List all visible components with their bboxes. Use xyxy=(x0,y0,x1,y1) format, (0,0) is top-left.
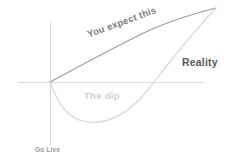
dip-chart-figure: You expect this Reality The dip Go Live xyxy=(0,0,232,163)
axis-label-go-live: Go Live xyxy=(35,147,60,154)
annotation-reality: Reality xyxy=(182,57,218,68)
annotation-the-dip: The dip xyxy=(84,91,120,101)
